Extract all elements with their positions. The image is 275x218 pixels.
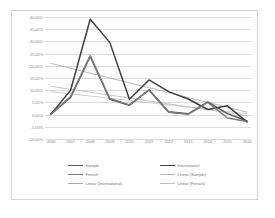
y-axis-tick-label: 40,00% bbox=[12, 15, 43, 20]
chart-lines bbox=[45, 11, 253, 159]
legend-item-label: Linear (Sample) bbox=[178, 172, 206, 177]
series-line-linear-international bbox=[51, 63, 247, 112]
y-axis-tick-label: 35,00% bbox=[12, 27, 43, 32]
chart-legend: SampleInternationalFinnishLinear (Sample… bbox=[12, 161, 257, 199]
y-axis-tick-label: 30,00% bbox=[12, 39, 43, 44]
x-axis-tick-label: 2014 bbox=[203, 139, 212, 144]
chart-container: 40,00%35,00%30,00%25,00%20,00%15,00%10,0… bbox=[11, 10, 258, 200]
legend-swatch-icon bbox=[160, 165, 175, 167]
x-axis-tick-label: 2011 bbox=[145, 139, 153, 144]
y-axis-tick-label: 10,00% bbox=[12, 88, 43, 93]
legend-item-label: Linear (International) bbox=[86, 181, 122, 186]
x-axis-tick-label: 2007 bbox=[66, 139, 75, 144]
x-axis-tick-label: 2010 bbox=[125, 139, 134, 144]
x-axis-tick-label: 2015 bbox=[223, 139, 232, 144]
plot-area: 40,00%35,00%30,00%25,00%20,00%15,00%10,0… bbox=[12, 11, 257, 159]
x-axis-tick-label: 2009 bbox=[105, 139, 114, 144]
y-axis-tick-label: -10,00% bbox=[12, 137, 43, 142]
legend-item[interactable]: Linear (Sample) bbox=[160, 172, 206, 177]
legend-item-label: Sample bbox=[86, 163, 100, 168]
x-axis-tick-label: 2013 bbox=[184, 139, 193, 144]
legend-swatch-icon bbox=[160, 174, 175, 175]
legend-item-label: Linear (Finnish) bbox=[178, 181, 206, 186]
y-axis-tick-label: 5,00% bbox=[12, 100, 43, 105]
legend-item[interactable]: Sample bbox=[68, 163, 99, 168]
legend-swatch-icon bbox=[68, 174, 83, 176]
legend-swatch-icon bbox=[68, 165, 83, 167]
x-axis: 2006200720082009201020112012201320142015… bbox=[45, 139, 253, 151]
y-axis-tick-label: 0,00% bbox=[12, 112, 43, 117]
legend-item[interactable]: Finnish bbox=[68, 172, 98, 177]
y-axis-tick-label: -5,00% bbox=[12, 124, 43, 129]
legend-item[interactable]: International bbox=[160, 163, 199, 168]
x-axis-tick-label: 2012 bbox=[164, 139, 173, 144]
legend-item[interactable]: Linear (International) bbox=[68, 181, 122, 186]
legend-item-label: International bbox=[178, 163, 200, 168]
y-axis-tick-label: 15,00% bbox=[12, 76, 43, 81]
legend-item-label: Finnish bbox=[86, 172, 99, 177]
legend-swatch-icon bbox=[160, 183, 175, 184]
x-axis-tick-label: 2006 bbox=[47, 139, 56, 144]
y-axis-tick-label: 25,00% bbox=[12, 51, 43, 56]
legend-item[interactable]: Linear (Finnish) bbox=[160, 181, 205, 186]
x-axis-tick-label: 2008 bbox=[86, 139, 95, 144]
y-axis-tick-label: 20,00% bbox=[12, 63, 43, 68]
legend-swatch-icon bbox=[68, 183, 83, 184]
x-axis-tick-label: 2016 bbox=[243, 139, 252, 144]
